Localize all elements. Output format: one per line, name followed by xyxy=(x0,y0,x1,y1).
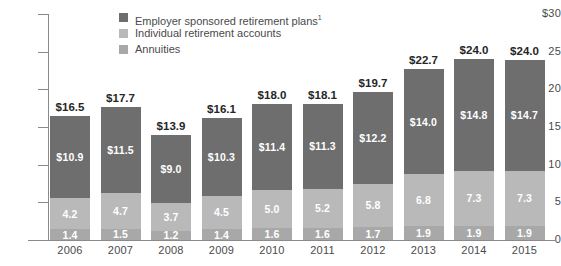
legend-swatch-employer xyxy=(119,13,128,22)
x-axis-label: 2011 xyxy=(297,244,349,256)
x-axis-label: 2009 xyxy=(196,244,248,256)
stacked-bar[interactable]: $14.77.31.9 xyxy=(505,60,545,240)
bar-segment-ira: 5.0 xyxy=(252,190,292,228)
bar-segment-ira: 4.2 xyxy=(50,198,90,230)
bar-total-label: $17.7 xyxy=(95,92,147,104)
bar-total-label: $22.7 xyxy=(398,54,450,66)
chart-legend: Employer sponsored retirement plans1 Ind… xyxy=(119,11,322,59)
bar-segment-annuities: 1.6 xyxy=(303,228,343,240)
bar-segment-annuities: 1.4 xyxy=(50,229,90,240)
bar-segment-ira: 5.2 xyxy=(303,189,343,228)
y-axis-tick xyxy=(38,202,48,203)
bar-segment-employer: $12.2 xyxy=(353,92,393,184)
y-axis-tick xyxy=(38,165,48,166)
y-axis-tick xyxy=(38,14,48,15)
x-axis-label: 2015 xyxy=(499,244,551,256)
x-axis-label: 2012 xyxy=(347,244,399,256)
bar-segment-annuities: 1.2 xyxy=(151,231,191,240)
bar-segment-annuities: 1.9 xyxy=(505,226,545,240)
bar-group: $14.06.81.9$22.7 xyxy=(404,14,444,240)
bar-group: $10.94.21.4$16.5 xyxy=(50,14,90,240)
bar-segment-employer: $14.8 xyxy=(454,59,494,170)
x-axis-label: 2006 xyxy=(44,244,96,256)
stacked-bar[interactable]: $14.87.31.9 xyxy=(454,59,494,240)
bar-total-label: $18.1 xyxy=(297,89,349,101)
legend-footnote-marker: 1 xyxy=(318,14,322,21)
bar-group: $14.77.31.9$24.0 xyxy=(505,14,545,240)
bar-group: $14.87.31.9$24.0 xyxy=(454,14,494,240)
bar-segment-employer: $11.5 xyxy=(101,107,141,194)
bar-total-label: $16.1 xyxy=(196,103,248,115)
x-axis-label: 2008 xyxy=(145,244,197,256)
x-axis-label: 2013 xyxy=(398,244,450,256)
bar-total-label: $18.0 xyxy=(246,89,298,101)
bar-segment-ira: 4.7 xyxy=(101,193,141,228)
bar-segment-annuities: 1.4 xyxy=(202,229,242,240)
stacked-bar[interactable]: $9.03.71.2 xyxy=(151,135,191,240)
legend-item-ira: Individual retirement accounts xyxy=(119,27,322,40)
bar-segment-ira: 4.5 xyxy=(202,196,242,230)
bar-segment-annuities: 1.9 xyxy=(404,226,444,240)
y-axis-tick xyxy=(38,127,48,128)
bar-segment-annuities: 1.9 xyxy=(454,226,494,240)
bar-segment-employer: $11.3 xyxy=(303,104,343,189)
legend-swatch-annuities xyxy=(119,45,128,54)
stacked-bar[interactable]: $10.34.51.4 xyxy=(202,118,242,240)
bar-total-label: $24.0 xyxy=(448,44,500,56)
bar-segment-ira: 6.8 xyxy=(404,174,444,225)
stacked-bar[interactable]: $14.06.81.9 xyxy=(404,69,444,240)
bar-segment-annuities: 1.7 xyxy=(353,227,393,240)
bar-segment-employer: $14.0 xyxy=(404,69,444,174)
bar-total-label: $24.0 xyxy=(499,45,551,57)
y-axis-tick xyxy=(38,240,48,241)
stacked-bar[interactable]: $11.45.01.6 xyxy=(252,104,292,240)
stacked-bar[interactable]: $10.94.21.4 xyxy=(50,116,90,240)
y-axis-tick xyxy=(38,89,48,90)
bar-segment-annuities: 1.6 xyxy=(252,228,292,240)
bar-segment-ira: 3.7 xyxy=(151,203,191,231)
bar-segment-ira: 7.3 xyxy=(505,171,545,226)
bar-segment-employer: $10.9 xyxy=(50,116,90,198)
stacked-bar[interactable]: $11.54.71.5 xyxy=(101,107,141,240)
y-axis-tick xyxy=(38,52,48,53)
legend-swatch-ira xyxy=(119,29,128,38)
legend-item-annuities: Annuities xyxy=(119,43,322,56)
bar-total-label: $13.9 xyxy=(145,120,197,132)
stacked-bar[interactable]: $11.35.21.6 xyxy=(303,104,343,240)
stacked-bar-chart: $302520151050 $10.94.21.4$16.5$11.54.71.… xyxy=(0,0,561,266)
x-axis-label: 2007 xyxy=(95,244,147,256)
bar-segment-employer: $9.0 xyxy=(151,135,191,203)
bar-segment-employer: $14.7 xyxy=(505,60,545,171)
bar-total-label: $16.5 xyxy=(44,101,96,113)
bar-segment-annuities: 1.5 xyxy=(101,229,141,240)
x-axis-label: 2014 xyxy=(448,244,500,256)
x-axis-line xyxy=(28,240,555,241)
bar-segment-ira: 5.8 xyxy=(353,184,393,228)
legend-item-employer: Employer sponsored retirement plans1 xyxy=(119,11,322,24)
x-axis-label: 2010 xyxy=(246,244,298,256)
legend-label-annuities: Annuities xyxy=(135,43,180,56)
bar-group: $12.25.81.7$19.7 xyxy=(353,14,393,240)
bar-segment-employer: $11.4 xyxy=(252,104,292,190)
bar-segment-employer: $10.3 xyxy=(202,118,242,196)
legend-label-ira: Individual retirement accounts xyxy=(135,27,281,40)
bar-total-label: $19.7 xyxy=(347,77,399,89)
bar-segment-ira: 7.3 xyxy=(454,171,494,226)
stacked-bar[interactable]: $12.25.81.7 xyxy=(353,92,393,240)
legend-label-employer: Employer sponsored retirement plans1 xyxy=(135,11,322,28)
